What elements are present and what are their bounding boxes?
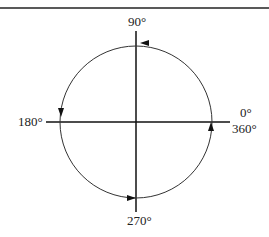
label-360: 360° xyxy=(232,122,257,135)
arrow-left-icon xyxy=(58,108,64,117)
arrow-right-icon xyxy=(208,122,214,131)
arrow-bottom-icon xyxy=(127,195,136,201)
label-180: 180° xyxy=(18,115,43,128)
label-270: 270° xyxy=(127,214,152,227)
label-0: 0° xyxy=(240,106,252,119)
label-90: 90° xyxy=(128,15,146,28)
arrow-top-icon xyxy=(140,40,149,46)
